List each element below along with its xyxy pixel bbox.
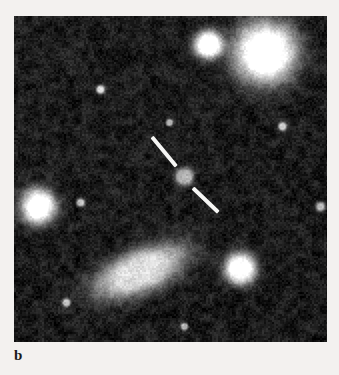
figure-root: b: [0, 0, 339, 375]
astronomical-image-panel: [14, 16, 327, 342]
panel-label-b: b: [14, 347, 22, 363]
sky-field-canvas: [14, 16, 327, 342]
